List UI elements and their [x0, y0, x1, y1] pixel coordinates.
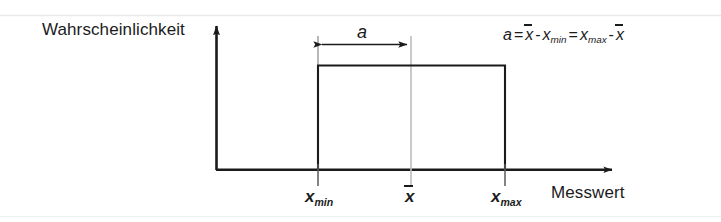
x-tick-label-mean: x [405, 188, 414, 205]
dimension-label-a: a [357, 23, 367, 41]
x-tick-mean-base: x [405, 188, 414, 205]
formula-minus-2: - [607, 26, 616, 43]
x-tick-xmax-sub: max [500, 196, 521, 208]
formula-xmax-base: x [580, 26, 588, 43]
formula-equals-2: = [567, 26, 580, 43]
formula-mean-1: x [525, 27, 533, 43]
formula-equals-1: = [512, 26, 525, 43]
uniform-distribution-figure: Wahrscheinlichkeit a a=x-xmin=xmax-x xmi… [0, 0, 721, 222]
formula-minus-1: - [533, 26, 542, 43]
formula-xmin-base: x [543, 26, 551, 43]
formula-mean-2: x [616, 27, 624, 43]
x-tick-label-xmax: xmax [491, 188, 522, 207]
x-tick-xmin-sub: min [314, 196, 333, 208]
formula-lhs: a [503, 26, 512, 43]
y-axis-title: Wahrscheinlichkeit [42, 21, 185, 38]
formula-xmin-sub: min [551, 34, 567, 45]
x-axis-title: Messwert [551, 184, 625, 201]
formula-expression: a=x-xmin=xmax-x [503, 27, 624, 45]
formula-xmax-sub: max [588, 34, 607, 45]
x-tick-label-xmin: xmin [305, 188, 333, 207]
